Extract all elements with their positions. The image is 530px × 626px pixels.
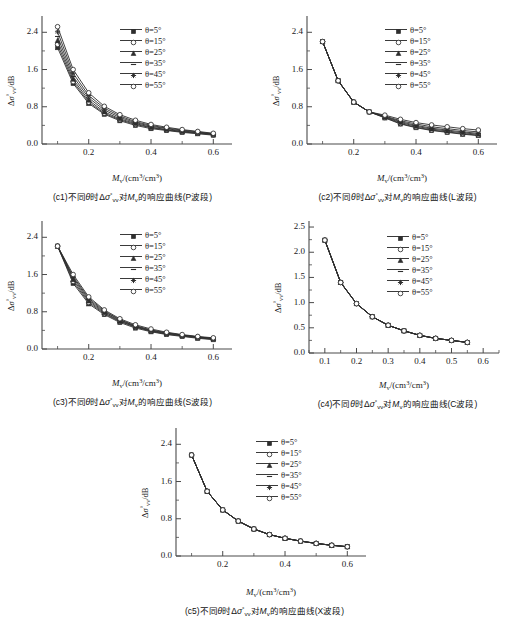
legend-label: θ=55° [145,80,166,90]
legend-item: θ=35° [387,264,433,275]
legend-marker-open-circle-icon [387,286,409,297]
legend-item: θ=55° [120,284,166,295]
y-axis-label: Δσ°vv/dB [6,75,17,106]
legend-c1: θ=5°θ=15°θ=25°θ=35°θ=45°θ=55° [120,24,166,90]
legend-marker-filled-square-icon [120,229,142,240]
legend-marker-line-only-icon [385,57,407,68]
legend-label: θ=15° [410,36,431,46]
y-axis-label: Δσ°vv/dB [273,282,284,313]
legend-label: θ=35° [281,470,302,480]
x-tick-label: 0.2 [75,147,103,157]
legend-label: θ=45° [410,69,431,79]
y-tick-label: 1.6 [10,269,38,279]
legend-label: θ=25° [412,254,433,264]
legend-item: θ=55° [120,79,166,90]
y-tick-label: 0.0 [144,550,172,560]
legend-marker-open-circle-icon [385,79,407,90]
panel-caption: (c4)不同θ时Δσ°vv对Mv的响应曲线(C波段) [265,397,530,410]
chart-panel-c4: 0.00.51.01.52.02.50.10.20.30.40.50.6Δσ°v… [265,209,530,412]
y-tick-label: 2.4 [275,26,303,36]
legend-c4: θ=5°θ=15°θ=25°θ=35°θ=45°θ=55° [387,231,433,297]
legend-label: θ=25° [410,47,431,57]
legend-marker-open-circle-icon [387,242,409,253]
legend-item: θ=5° [120,24,166,35]
legend-item: θ=5° [256,436,302,447]
x-tick-label: 0.2 [343,356,371,366]
legend-label: θ=55° [412,287,433,297]
x-tick-label: 0.2 [75,352,103,362]
y-tick-label: 2.4 [144,438,172,448]
legend-label: θ=45° [412,276,433,286]
legend-item: θ=25° [256,458,302,469]
y-tick-label: 0.0 [10,138,38,148]
legend-label: θ=5° [281,437,298,447]
legend-label: θ=5° [410,25,427,35]
legend-label: θ=25° [281,459,302,469]
legend-marker-open-circle-icon [120,284,142,295]
y-tick-label: 2.4 [10,26,38,36]
x-tick-label: 0.4 [137,147,165,157]
legend-item: θ=45° [387,275,433,286]
legend-item: θ=5° [387,231,433,242]
chart-panel-c2: 0.00.81.62.40.20.40.6Δσ°vv/dBMv/(cm3/cm3… [265,2,530,207]
x-tick-label: 0.2 [209,559,237,569]
panel-caption: (c2)不同θ时Δσ°vv对Mv的响应曲线(L波段) [265,190,530,203]
x-tick-label: 0.6 [199,352,227,362]
legend-item: θ=35° [120,262,166,273]
x-axis-label: Mv/(cm3/cm3) [42,172,232,184]
legend-item: θ=25° [120,251,166,262]
legend-marker-plus-star-icon [256,480,278,491]
legend-marker-filled-triangle-icon [120,46,142,57]
legend-label: θ=15° [145,241,166,251]
x-tick-label: 0.4 [271,559,299,569]
legend-label: θ=35° [410,58,431,68]
legend-label: θ=55° [281,492,302,502]
y-tick-label: 2.5 [277,221,305,231]
legend-item: θ=15° [387,242,433,253]
legend-marker-filled-square-icon [387,231,409,242]
legend-marker-filled-triangle-icon [120,251,142,262]
legend-marker-plus-star-icon [120,68,142,79]
legend-label: θ=15° [145,36,166,46]
x-tick-label: 0.6 [333,559,361,569]
legend-label: θ=35° [145,263,166,273]
chart-panel-c1: 0.00.81.62.40.20.40.6Δσ°vv/dBMv/(cm3/cm3… [0,2,265,207]
legend-marker-line-only-icon [120,57,142,68]
legend-marker-plus-star-icon [120,273,142,284]
legend-marker-filled-square-icon [256,436,278,447]
y-tick-label: 0.5 [277,322,305,332]
legend-label: θ=45° [145,69,166,79]
legend-item: θ=55° [387,286,433,297]
legend-label: θ=5° [145,25,162,35]
chart-panel-c3: 0.00.81.62.40.20.40.6Δσ°vv/dBMv/(cm3/cm3… [0,209,265,412]
y-tick-label: 1.6 [275,64,303,74]
y-axis-label: Δσ°vv/dB [6,280,17,311]
x-tick-label: 0.4 [137,352,165,362]
panel-caption: (c1)不同θ时Δσ°vv对Mv的响应曲线(P波段) [0,190,265,203]
legend-item: θ=55° [256,491,302,502]
legend-marker-filled-square-icon [120,24,142,35]
x-tick-label: 0.1 [311,356,339,366]
legend-item: θ=15° [256,447,302,458]
x-tick-label: 0.4 [402,147,430,157]
y-tick-label: 0.0 [277,347,305,357]
legend-c5: θ=5°θ=15°θ=25°θ=35°θ=45°θ=55° [256,436,302,502]
legend-marker-filled-triangle-icon [385,46,407,57]
legend-item: θ=15° [120,35,166,46]
legend-c2: θ=5°θ=15°θ=25°θ=35°θ=45°θ=55° [385,24,431,90]
legend-marker-open-circle-icon [385,35,407,46]
legend-item: θ=25° [120,46,166,57]
legend-item: θ=25° [387,253,433,264]
legend-label: θ=45° [281,481,302,491]
legend-label: θ=25° [145,252,166,262]
legend-marker-filled-triangle-icon [387,253,409,264]
legend-item: θ=45° [256,480,302,491]
legend-marker-line-only-icon [387,264,409,275]
legend-label: θ=35° [145,58,166,68]
legend-marker-open-circle-icon [120,240,142,251]
y-tick-label: 1.6 [144,476,172,486]
legend-marker-line-only-icon [256,469,278,480]
legend-label: θ=35° [412,265,433,275]
x-tick-label: 0.5 [438,356,466,366]
legend-item: θ=15° [385,35,431,46]
